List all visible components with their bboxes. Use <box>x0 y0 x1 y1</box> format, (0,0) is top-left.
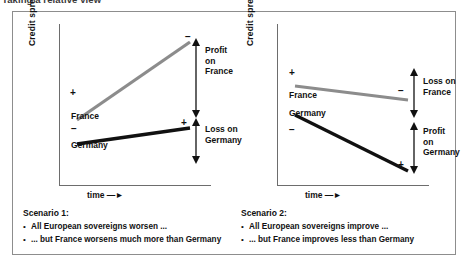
profit-on-germany-line-1: Profit <box>423 126 460 137</box>
figure-frame: Credit spread —▲ + − France − + Germany … <box>12 11 456 255</box>
bullet-dot-icon: • <box>23 234 31 245</box>
profit-on-germany-line-3: Germany <box>423 147 460 158</box>
scenario-1-block: Scenario 1: • All European sovereigns wo… <box>23 208 235 247</box>
france-series-label-right: France <box>289 90 317 100</box>
bullet-dot-icon: • <box>241 221 249 232</box>
profit-on-france-arrow-icon <box>189 38 203 118</box>
france-end-sign-right: − <box>398 86 404 96</box>
y-axis-label-text: Credit spread <box>27 0 37 46</box>
scenario-2-bullet-2: • ... but France improves less than Germ… <box>241 234 453 245</box>
germany-end-sign-left: + <box>181 118 187 128</box>
germany-start-sign-right: − <box>289 125 295 135</box>
x-axis-label-left: time —► <box>87 190 124 200</box>
chart-panel-scenario-1: Credit spread —▲ + − France − + Germany … <box>13 12 235 256</box>
france-start-sign-left: + <box>70 88 76 98</box>
loss-on-germany-arrow-icon <box>189 118 203 164</box>
germany-end-sign-right: + <box>398 160 404 170</box>
profit-on-germany-line-2: on <box>423 137 460 148</box>
y-axis-label-left: Credit spread —▲ <box>27 0 37 46</box>
bullet-dot-icon: • <box>23 221 31 232</box>
germany-series-label-left: Germany <box>71 140 108 150</box>
scenario-2-title: Scenario 2: <box>241 208 453 218</box>
loss-on-france-arrow-icon <box>407 68 421 118</box>
x-axis-arrow-icon: —► <box>322 190 341 200</box>
loss-on-france-line-1: Loss on <box>423 76 456 87</box>
x-axis-label-text: time <box>87 190 104 200</box>
scenario-1-bullet-2: • ... but France worsens much more than … <box>23 234 235 245</box>
bullet-dot-icon: • <box>241 234 249 245</box>
scenario-1-bullet-1: • All European sovereigns worsen ... <box>23 221 235 232</box>
figure-caption-strip: Taking a relative view <box>0 0 468 10</box>
chart-panel-scenario-2: Credit spread —▲ + − France Germany − + … <box>231 12 453 256</box>
x-axis-label-text: time <box>305 190 322 200</box>
profit-on-france-line-1: Profit <box>205 45 233 56</box>
france-line-left <box>77 42 190 120</box>
scenario-2-bullet-1: • All European sovereigns improve ... <box>241 221 453 232</box>
y-axis-label-right: Credit spread —▲ <box>245 0 255 46</box>
profit-on-france-line-3: France <box>205 66 233 77</box>
y-axis-label-text: Credit spread <box>245 0 255 46</box>
loss-on-france-line-2: France <box>423 87 456 98</box>
profit-on-germany-arrow-icon <box>407 122 421 174</box>
loss-on-france-label: Loss on France <box>423 76 456 97</box>
france-start-sign-right: + <box>289 68 295 78</box>
profit-on-france-line-2: on <box>205 56 233 67</box>
scenario-1-title: Scenario 1: <box>23 208 235 218</box>
germany-line-right <box>295 115 408 171</box>
germany-start-sign-left: − <box>71 124 77 134</box>
germany-series-label-right: Germany <box>289 108 326 118</box>
profit-on-germany-label: Profit on Germany <box>423 126 460 158</box>
france-series-label-left: France <box>71 111 99 121</box>
x-axis-arrow-icon: —► <box>104 190 123 200</box>
figure-caption: Taking a relative view <box>2 0 101 5</box>
profit-on-france-label: Profit on France <box>205 45 233 77</box>
scenario-2-block: Scenario 2: • All European sovereigns im… <box>241 208 453 247</box>
x-axis-label-right: time —► <box>305 190 342 200</box>
